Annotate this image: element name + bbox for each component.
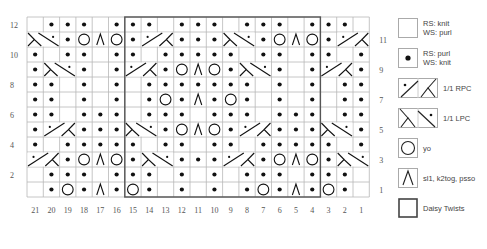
purl-dot-icon [212,37,216,41]
purl-dot-icon [278,52,282,56]
purl-dot-icon [49,97,53,101]
legend-item-lpc: 1/1 LPC [398,105,487,131]
purl-dot-icon [245,112,249,116]
purl-dot-icon [261,37,265,41]
column-label: 19 [64,206,72,215]
legend-item-knit: RS: knit WS: purl [398,15,487,41]
column-label: 4 [310,206,314,215]
column-label: 8 [245,206,249,215]
purl-dot-icon [196,157,200,161]
purl-dot-icon [115,82,119,86]
row-label: 11 [379,36,387,45]
purl-dot-icon [229,127,233,131]
legend-label: 1/1 RPC [443,84,471,93]
purl-dot-icon [180,187,184,191]
purl-dot-icon [66,37,70,41]
purl-dot-icon [310,67,314,71]
purl-dot-icon [212,187,216,191]
purl-dot-icon [115,112,119,116]
legend-label: RS: knit WS: purl [423,19,452,37]
purl-dot-icon [147,97,151,101]
purl-dot-icon [398,48,418,68]
purl-dot-icon [49,187,53,191]
purl-dot-icon [66,157,70,161]
purl-dot-icon [343,112,347,116]
row-label: 3 [379,156,383,165]
purl-dot-icon [212,142,216,146]
purl-dot-icon [180,37,184,41]
column-label: 18 [80,206,88,215]
purl-dot-icon [163,142,167,146]
purl-dot-icon [359,67,363,71]
purl-dot-icon [82,172,86,176]
purl-dot-icon [294,112,298,116]
purl-dot-icon [310,52,314,56]
purl-dot-icon [33,97,37,101]
purl-dot-icon [131,142,135,146]
lpc-cable-icon [398,108,438,128]
column-label: 1 [359,206,363,215]
purl-dot-icon [147,172,151,176]
repeat-box-icon [398,198,418,218]
purl-dot-icon [261,22,265,26]
purl-dot-icon [359,97,363,101]
column-label: 5 [294,206,298,215]
purl-dot-icon [245,22,249,26]
purl-dot-icon [326,22,330,26]
purl-dot-icon [115,97,119,101]
purl-dot-icon [82,127,86,131]
purl-dot-icon [180,52,184,56]
row-label: 5 [379,126,383,135]
purl-dot-icon [310,172,314,176]
purl-dot-icon [212,172,216,176]
purl-dot-icon [359,142,363,146]
column-label: 6 [278,206,282,215]
purl-dot-icon [33,127,37,131]
purl-dot-icon [278,142,282,146]
purl-dot-icon [278,112,282,116]
purl-dot-icon [261,52,265,56]
purl-dot-icon [343,97,347,101]
purl-dot-icon [212,112,216,116]
purl-dot-icon [163,112,167,116]
purl-dot-icon [359,52,363,56]
purl-dot-icon [115,142,119,146]
purl-dot-icon [163,67,167,71]
purl-dot-icon [245,172,249,176]
purl-dot-icon [310,127,314,131]
chart-row-8 [33,82,363,86]
sk2p-caret-icon [398,168,418,188]
purl-dot-icon [115,22,119,26]
purl-dot-icon [180,97,184,101]
column-label: 9 [229,206,233,215]
row-label: 9 [379,66,383,75]
purl-dot-icon [343,172,347,176]
knit-square-icon [398,18,418,38]
purl-dot-icon [66,172,70,176]
purl-dot-icon [310,97,314,101]
purl-dot-icon [131,52,135,56]
purl-dot-icon [82,22,86,26]
column-label: 13 [162,206,170,215]
purl-dot-icon [212,97,216,101]
purl-dot-icon [115,52,119,56]
purl-dot-icon [98,127,102,131]
purl-dot-icon [278,82,282,86]
purl-dot-icon [261,142,265,146]
purl-dot-icon [326,142,330,146]
purl-dot-icon [196,37,200,41]
row-label: 6 [10,111,14,120]
purl-dot-icon [359,127,363,131]
purl-dot-icon [278,187,282,191]
purl-dot-icon [278,67,282,71]
purl-dot-icon [163,52,167,56]
purl-dot-icon [82,112,86,116]
purl-dot-icon [310,22,314,26]
purl-dot-icon [82,67,86,71]
purl-dot-icon [261,172,265,176]
column-label: 15 [129,206,137,215]
purl-dot-icon [294,127,298,131]
legend-label: RS: purl WS: knit [423,49,451,67]
purl-dot-icon [245,82,249,86]
purl-dot-icon [278,127,282,131]
